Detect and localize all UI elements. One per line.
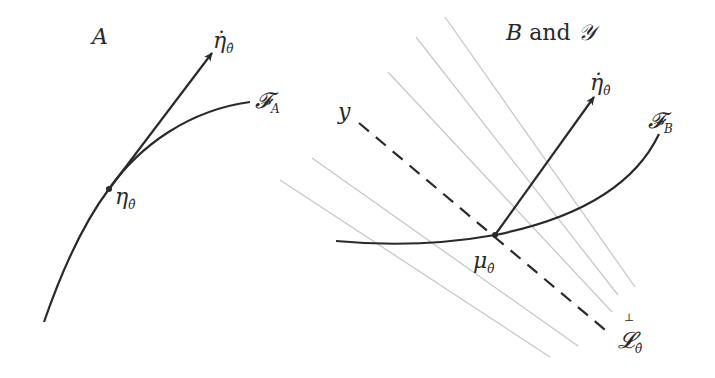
- curve-f-a: [44, 102, 250, 322]
- line-label-l-main: 𝓛: [618, 327, 635, 353]
- curve-label-f-b-main: 𝓕: [648, 108, 664, 133]
- panel-b-title: B and 𝒴: [506, 22, 595, 44]
- panel-b-title-y: 𝒴: [578, 20, 595, 45]
- dashed-line-l-perp: [359, 123, 610, 334]
- point-label-eta: ηθ̂: [115, 186, 135, 208]
- arrow-label-b-sub: θ̂: [603, 84, 610, 98]
- point-mu: [492, 232, 498, 238]
- diagram-canvas: [0, 0, 715, 378]
- point-label-eta-sub: θ̂: [128, 198, 135, 212]
- curve-label-f-a: 𝓕A: [255, 90, 280, 112]
- point-label-mu-sub: θ̂: [487, 262, 494, 276]
- tangent-arrow-b: [495, 97, 594, 235]
- panel-b: [280, 17, 659, 357]
- curve-label-f-a-main: 𝓕: [255, 88, 271, 113]
- point-label-eta-main: η: [115, 184, 128, 209]
- panel-b-title-b: B: [506, 20, 522, 45]
- panel-a-title: A: [92, 26, 108, 48]
- line-label-l-sub: θ̂: [635, 342, 642, 356]
- arrow-label-b: η̇θ̂: [590, 72, 610, 94]
- point-label-mu: μθ̂: [473, 250, 495, 272]
- y-label: y: [338, 101, 350, 123]
- curve-label-f-b-sub: B: [664, 122, 673, 136]
- arrow-label-a: η̇θ̂: [213, 30, 233, 52]
- panel-a: [44, 53, 250, 322]
- arrow-label-b-main: η̇: [590, 70, 603, 95]
- arrow-label-a-main: η̇: [213, 28, 226, 53]
- line-label-l: 𝓛θ̂: [618, 329, 642, 352]
- gray-level-lines: [280, 17, 635, 357]
- curve-label-f-a-sub: A: [271, 102, 280, 116]
- point-label-mu-main: μ: [473, 248, 487, 273]
- line-label-perp: ⊥: [624, 312, 634, 323]
- panel-b-title-and: and: [522, 20, 577, 45]
- arrow-label-a-sub: θ̂: [226, 42, 233, 56]
- tangent-arrow-a: [109, 53, 212, 189]
- point-eta: [106, 186, 112, 192]
- curve-label-f-b: 𝓕B: [648, 110, 673, 132]
